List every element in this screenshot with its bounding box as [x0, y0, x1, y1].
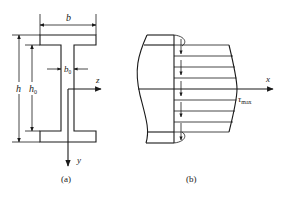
label-y: y	[76, 155, 81, 165]
dimension-b0: b0	[47, 64, 88, 75]
caption-a: (a)	[61, 174, 71, 184]
label-tau-max: τmax	[238, 94, 252, 105]
dimension-b: b	[40, 12, 96, 35]
label-x: x	[265, 74, 270, 84]
caption-b: (b)	[186, 174, 197, 184]
label-b0: b0	[64, 64, 72, 75]
section-axes: z y	[68, 75, 101, 166]
dimension-h0: h0	[25, 45, 40, 131]
label-z: z	[95, 75, 100, 85]
label-h: h	[16, 83, 21, 94]
label-b: b	[66, 12, 71, 23]
flange-stress-curve-top	[174, 35, 185, 46]
figure-canvas: b h h0 b0 z y (a)	[0, 0, 283, 199]
flange-stress-curve-bottom	[174, 132, 185, 143]
